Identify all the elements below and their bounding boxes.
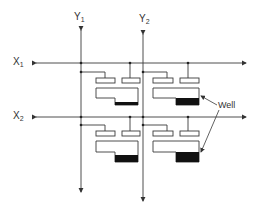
cell-r1c1 (80, 62, 140, 105)
cell-array-diagram: Y1 Y2 X1 X2 Well (0, 0, 257, 211)
well-leader-lower (201, 110, 219, 152)
well-full (176, 152, 199, 162)
bit-line-y2-label: Y2 (139, 14, 150, 25)
well-leader-upper (201, 96, 217, 105)
cell-r2c1 (80, 116, 140, 162)
bit-line-y1-label: Y1 (74, 12, 85, 23)
well-annotation-label: Well (218, 101, 235, 110)
well-full (176, 98, 199, 105)
cell-r1c2 (142, 62, 199, 105)
well-full (115, 155, 138, 162)
word-line-x2-label: X2 (13, 111, 24, 122)
well-partial (115, 102, 138, 105)
word-line-x1-label: X1 (13, 57, 24, 68)
cell-r2c2 (142, 116, 199, 162)
